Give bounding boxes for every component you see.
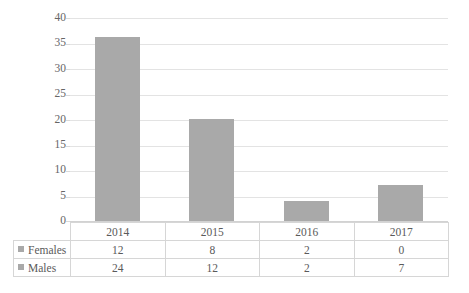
cell-males-2015: 12 — [165, 259, 260, 277]
cell-females-2016: 2 — [260, 241, 355, 259]
bar-chart-with-data-table: 40 35 30 25 20 15 10 5 0 — [0, 0, 469, 293]
legend-label-females: Females — [28, 244, 66, 256]
bar-2015 — [189, 119, 234, 221]
column-header-2017: 2017 — [354, 223, 449, 241]
cell-males-2017: 7 — [354, 259, 449, 277]
legend-swatch-males-icon — [18, 264, 24, 270]
y-axis-tick-30: 30 — [6, 63, 66, 75]
tick-25 — [66, 95, 70, 96]
data-table-wrap: 2014 2015 2016 2017 Females 12 8 2 0 — [13, 222, 448, 277]
cell-females-2017: 0 — [354, 241, 449, 259]
plot-area — [70, 18, 448, 222]
y-axis-tick-5: 5 — [6, 190, 66, 202]
y-axis-tick-40: 40 — [6, 12, 66, 24]
column-header-2016: 2016 — [260, 223, 355, 241]
tick-15 — [66, 146, 70, 147]
y-axis-tick-labels: 40 35 30 25 20 15 10 5 0 — [0, 18, 66, 222]
cell-males-2016: 2 — [260, 259, 355, 277]
table-row: Males 24 12 2 7 — [14, 259, 449, 277]
cell-females-2015: 8 — [165, 241, 260, 259]
y-axis-tick-20: 20 — [6, 114, 66, 126]
y-axis-tick-35: 35 — [6, 37, 66, 49]
bar-2014 — [95, 37, 140, 221]
tick-5 — [66, 197, 70, 198]
legend-swatch-females-icon — [18, 246, 24, 252]
tick-40 — [66, 18, 70, 19]
row-label-males: Males — [14, 259, 71, 277]
tick-20 — [66, 120, 70, 121]
cell-males-2014: 24 — [71, 259, 166, 277]
bar-2016 — [284, 201, 329, 221]
tick-35 — [66, 44, 70, 45]
table-row: Females 12 8 2 0 — [14, 241, 449, 259]
legend-label-males: Males — [28, 262, 56, 274]
tick-10 — [66, 171, 70, 172]
column-header-2015: 2015 — [165, 223, 260, 241]
cell-females-2014: 12 — [71, 241, 166, 259]
tick-30 — [66, 69, 70, 70]
data-table: 2014 2015 2016 2017 Females 12 8 2 0 — [13, 222, 449, 277]
row-label-females: Females — [14, 241, 71, 259]
y-axis-tick-15: 15 — [6, 139, 66, 151]
y-axis-tick-10: 10 — [6, 164, 66, 176]
column-header-2014: 2014 — [71, 223, 166, 241]
table-header-row: 2014 2015 2016 2017 — [14, 223, 449, 241]
y-axis-tick-25: 25 — [6, 88, 66, 100]
gridline-40 — [70, 18, 448, 19]
bar-2017 — [378, 185, 423, 221]
table-corner-cell — [14, 223, 71, 241]
